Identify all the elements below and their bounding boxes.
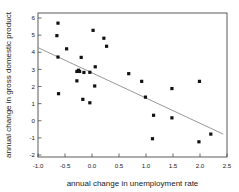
data-point-marker [197, 140, 200, 143]
x-tick-label: 2.0 [196, 162, 205, 169]
data-point-marker [75, 79, 78, 82]
data-point-marker [94, 65, 97, 68]
data-point-marker [56, 22, 59, 25]
data-point-marker [81, 98, 84, 101]
data-point-marker [93, 84, 96, 87]
y-tick-label: -1 [29, 134, 35, 141]
x-tick-label: 0.0 [88, 162, 97, 169]
y-tick-label: -2 [29, 151, 35, 158]
x-tick-label: 2.5 [223, 162, 232, 169]
x-tick-label: -0.5 [60, 162, 71, 169]
data-point-marker [65, 47, 68, 50]
data-point-marker [57, 92, 60, 95]
y-axis-ticks: 6543210-1-2 [29, 14, 41, 158]
chart-container: -1.0-0.50.00.51.01.52.02.5 6543210-1-2 a… [0, 0, 239, 192]
y-tick-label: 3 [32, 66, 36, 73]
y-tick-label: 1 [32, 100, 36, 107]
x-tick-label: 1.5 [169, 162, 178, 169]
x-axis-title: annual change in unemployment rate [67, 179, 199, 188]
data-point-marker [102, 37, 105, 40]
data-point-marker [56, 55, 59, 58]
y-tick-label: 2 [32, 83, 36, 90]
regression-line-segment [38, 48, 223, 134]
data-point-marker [170, 116, 173, 119]
regression-line [38, 48, 223, 134]
x-tick-label: 0.5 [115, 162, 124, 169]
y-axis-title: annual change in gross domestic product [4, 11, 13, 158]
y-tick-label: 0 [32, 117, 36, 124]
data-point-marker [152, 114, 155, 117]
y-tick-label: 5 [32, 31, 36, 38]
data-point-marker [127, 72, 130, 75]
y-tick-label: 6 [32, 14, 36, 21]
data-points [55, 22, 212, 144]
data-point-marker [140, 80, 143, 83]
data-point-marker [198, 80, 201, 83]
plot-frame [38, 13, 227, 157]
y-tick-label: 4 [32, 48, 36, 55]
data-point-marker [105, 45, 108, 48]
data-point-marker [75, 70, 78, 73]
scatter-plot: -1.0-0.50.00.51.01.52.02.5 6543210-1-2 a… [0, 0, 239, 192]
data-point-marker [151, 137, 154, 140]
x-tick-label: 1.0 [142, 162, 151, 169]
data-point-marker [88, 71, 91, 74]
data-point-marker [91, 29, 94, 32]
data-point-marker [55, 34, 58, 37]
x-tick-label: -1.0 [33, 162, 44, 169]
data-point-marker [82, 71, 85, 74]
data-point-marker [170, 87, 173, 90]
data-point-marker [144, 96, 147, 99]
data-point-marker [88, 101, 91, 104]
data-point-marker [209, 133, 212, 136]
x-axis-ticks: -1.0-0.50.00.51.01.52.02.5 [33, 154, 232, 170]
data-point-marker [80, 56, 83, 59]
